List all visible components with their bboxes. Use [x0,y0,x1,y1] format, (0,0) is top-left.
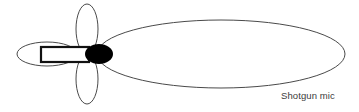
figure-caption: Shotgun mic [281,90,335,102]
front-lobe-shape [97,20,345,88]
shotgun-mic-polar-pattern-diagram: Shotgun mic [0,0,359,112]
microphone-capsule-shape [85,44,113,64]
microphone-body-shape [41,47,89,62]
